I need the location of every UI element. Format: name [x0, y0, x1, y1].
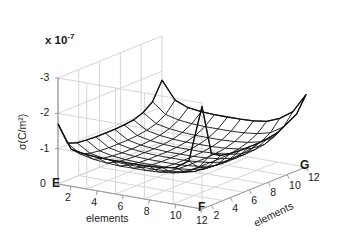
- left-tick-label-2: 6: [117, 200, 123, 212]
- right-tick-label-5: 12: [308, 171, 320, 183]
- left-tick-label-4: 10: [170, 209, 182, 221]
- left-tick-label-3: 8: [144, 205, 150, 217]
- axis-exponent-label: x 10-7: [45, 32, 75, 46]
- figure-3d-mesh-plot: x 10-7 σ(C/m²) E F G elements elements 0…: [0, 0, 340, 248]
- right-tick-label-1: 4: [232, 202, 238, 214]
- mesh-surface: [58, 80, 306, 173]
- right-tick-label-3: 8: [270, 186, 276, 198]
- corner-label-f: F: [198, 200, 205, 214]
- right-tick-label-4: 10: [289, 179, 301, 191]
- corner-label-e: E: [52, 176, 60, 190]
- corner-label-g: G: [300, 158, 309, 172]
- z-tick-label-1: -1: [40, 142, 49, 154]
- left-tick-mark: [96, 191, 97, 195]
- left-tick-label-1: 4: [91, 196, 97, 208]
- left-tick-mark: [122, 195, 123, 199]
- left-tick-label-5: 12: [196, 214, 208, 226]
- left-tick-mark: [175, 204, 176, 208]
- left-axis-label: elements: [86, 212, 129, 224]
- right-tick-label-2: 6: [251, 194, 257, 206]
- left-tick-mark: [149, 200, 150, 204]
- left-tick-mark: [70, 186, 71, 190]
- left-tick-label-0: 2: [65, 191, 71, 203]
- z-tick-label-2: -2: [40, 106, 49, 118]
- right-tick-label-0: 2: [213, 209, 219, 221]
- z-tick-label-0: 0: [40, 177, 46, 189]
- z-tick-label-3: -3: [40, 71, 49, 83]
- z-axis-label: σ(C/m²): [16, 114, 28, 150]
